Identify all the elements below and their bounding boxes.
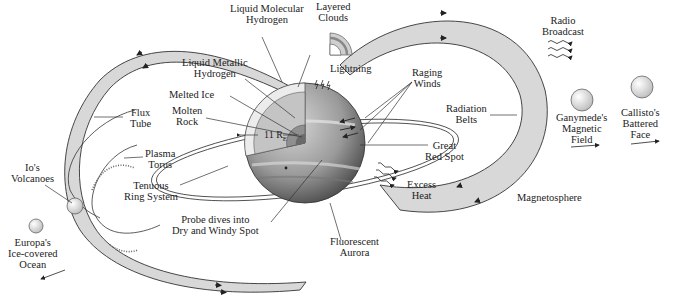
label-raging-winds: RagingWinds — [412, 67, 442, 89]
io-moon — [67, 198, 83, 214]
ganymede-moon — [571, 89, 593, 111]
label-fluorescent-aurora: FluorescentAurora — [330, 236, 379, 258]
label-ganymede: Ganymede'sMagneticField — [556, 112, 607, 145]
label-plasma-torus: PlasmaTorus — [145, 148, 175, 170]
label-flux-tube: FluxTube — [130, 107, 151, 129]
label-io-volcanoes: Io'sVolcanoes — [11, 162, 54, 184]
ganymede-arrow — [571, 145, 599, 147]
radiation-belts — [340, 13, 547, 212]
label-radius: 11 RE — [264, 129, 287, 145]
label-excess-heat: ExcessHeat — [407, 179, 436, 201]
callisto-moon — [631, 76, 653, 98]
label-liquid-molecular-hydrogen: Liquid MolecularHydrogen — [230, 3, 304, 25]
label-magnetosphere: Magnetosphere — [517, 192, 582, 203]
jupiter-planet — [245, 80, 365, 203]
label-radio-broadcast: RadioBroadcast — [542, 15, 584, 37]
label-tenuous-ring: TenuousRing System — [124, 180, 178, 202]
callisto-arrow — [631, 141, 659, 144]
label-callisto: Callisto'sBatteredFace — [621, 107, 660, 140]
europa-arrow — [41, 270, 65, 279]
layered-clouds-icon — [308, 33, 352, 55]
radio-waves-icon — [548, 41, 572, 58]
label-radiation-belts: RadiationBelts — [446, 103, 487, 125]
label-liquid-metallic-hydrogen: Liquid MetallicHydrogen — [182, 57, 248, 79]
label-molten-rock: MoltenRock — [172, 105, 202, 127]
label-europa: Europa'sIce-coveredOcean — [8, 237, 58, 270]
label-probe: Probe dives intoDry and Windy Spot — [172, 214, 259, 236]
label-layered-clouds: LayeredClouds — [316, 1, 350, 23]
jupiter-diagram — [0, 0, 681, 305]
label-lightning: Lightning — [330, 63, 371, 74]
label-melted-ice: Melted Ice — [169, 89, 214, 100]
europa-moon — [29, 219, 43, 233]
label-great-red-spot: GreatRed Spot — [425, 140, 464, 162]
